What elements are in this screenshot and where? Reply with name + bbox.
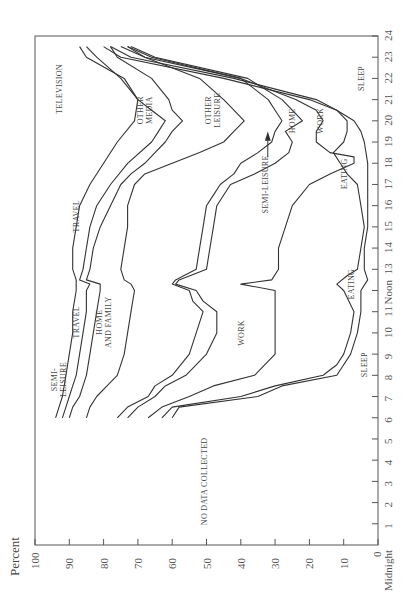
- hour-tick-label: 7: [382, 396, 394, 402]
- hour-tick-label: 21: [382, 94, 394, 105]
- area-label: SEMI-LEISURE: [50, 362, 68, 397]
- hour-tick-label: 14: [382, 242, 394, 254]
- percent-tick-label: 70: [132, 558, 144, 570]
- hour-tick-label: 15: [382, 220, 394, 232]
- hour-tick-label: 16: [382, 199, 394, 211]
- no-data-note: NO DATA COLLECTED: [200, 438, 209, 526]
- hour-tick-label: 24: [382, 30, 394, 42]
- hour-tick-label: 23: [382, 51, 394, 63]
- hour-tick-label: 3: [382, 480, 394, 486]
- activity-boundary-line: [121, 47, 354, 418]
- hour-tick-label: 9: [382, 353, 394, 359]
- hour-tick-label: 8: [382, 374, 394, 380]
- hour-tick-label: Noon: [382, 280, 394, 305]
- time-use-chart: 1009080706050403020100Midnight1234567891…: [0, 0, 416, 596]
- percent-tick-label: 100: [29, 552, 41, 569]
- axis-labels: Percent: [7, 537, 22, 576]
- hour-tick-label: 17: [382, 178, 394, 190]
- hour-tick-label: 13: [382, 263, 394, 275]
- area-label: EATING: [347, 269, 356, 300]
- y-axis-title: Percent: [7, 537, 22, 576]
- arrowhead-icon: [265, 131, 271, 140]
- hour-tick-label: 5: [382, 438, 394, 444]
- area-label: SEMI-LEISURE: [261, 155, 270, 213]
- area-label: OTHERLEISURE: [204, 93, 222, 128]
- percent-tick-label: 10: [338, 558, 350, 570]
- percent-tick-label: 30: [269, 558, 281, 570]
- area-label: WORK: [316, 108, 325, 134]
- percent-tick-label: 80: [98, 558, 110, 570]
- area-label: TRAVEL: [72, 200, 81, 232]
- hour-tick-label: 2: [382, 502, 394, 508]
- midnight-label: Midnight: [382, 550, 394, 591]
- hour-tick-label: 22: [382, 72, 394, 83]
- percent-tick-label: 90: [63, 558, 75, 570]
- area-label: TELEVISION: [55, 64, 64, 114]
- percent-tick-label: 40: [235, 558, 247, 570]
- area-label: SLEEP: [357, 66, 366, 91]
- area-labels: SLEEPEATINGWORKHOMEAND FAMILYTRAVELSEMI-…: [50, 64, 369, 525]
- area-label: HOMEAND FAMILY: [95, 297, 113, 349]
- hour-tick-label: 11: [382, 306, 394, 317]
- area-label: WORK: [237, 320, 246, 346]
- area-label: SLEEP: [360, 352, 369, 377]
- hour-tick-label: 1: [382, 523, 394, 529]
- hour-tick-label: 18: [382, 157, 394, 169]
- area-label: TRAVEL: [72, 306, 81, 338]
- area-label: HOME: [288, 108, 297, 133]
- percent-tick-label: 60: [166, 558, 178, 570]
- hour-tick-label: 6: [382, 417, 394, 423]
- area-label: OTHERMEDIA: [136, 96, 154, 125]
- area-label: EATING: [340, 159, 349, 190]
- hour-tick-label: 19: [382, 136, 394, 148]
- activity-boundary-line: [69, 47, 182, 418]
- percent-tick-label: 20: [303, 558, 315, 570]
- hour-tick-label: 4: [382, 459, 394, 465]
- percent-tick-label: 50: [201, 558, 213, 570]
- hour-tick-label: 10: [382, 326, 394, 338]
- hour-tick-label: 20: [382, 114, 394, 126]
